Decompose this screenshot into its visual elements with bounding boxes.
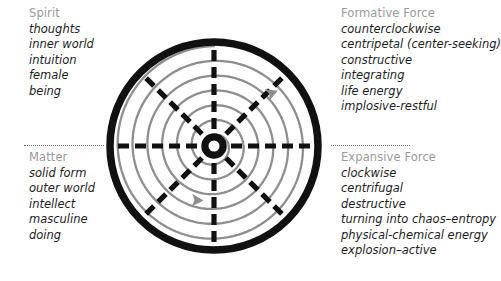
list-item: physical-chemical energy (341, 228, 496, 244)
list-item: implosive-restful (341, 99, 501, 115)
lower-arrow-icon (192, 194, 204, 207)
list-item: doing (29, 228, 95, 244)
diagram-canvas: Spirit thoughts inner world intuition fe… (0, 0, 501, 281)
polarity-wheel (101, 24, 327, 270)
list-item: outer world (29, 181, 95, 197)
list-item: centripetal (center-seeking) (341, 37, 501, 53)
divider-left (24, 145, 104, 146)
list-item: intuition (29, 53, 94, 69)
block-list-expansive-force: clockwise centrifugal destructive turnin… (341, 166, 496, 260)
list-item: clockwise (341, 166, 496, 182)
list-item: masculine (29, 212, 95, 228)
text-block-expansive-force: Expansive Force clockwise centrifugal de… (341, 150, 496, 259)
list-item: life energy (341, 84, 501, 100)
text-block-spirit: Spirit thoughts inner world intuition fe… (29, 6, 94, 99)
divider-right (331, 145, 410, 146)
list-item: solid form (29, 166, 95, 182)
list-item: destructive (341, 197, 496, 213)
list-item: constructive (341, 53, 501, 69)
list-item: inner world (29, 37, 94, 53)
block-heading-formative-force: Formative Force (341, 6, 501, 22)
list-item: thoughts (29, 22, 94, 38)
list-item: intellect (29, 197, 95, 213)
block-heading-matter: Matter (29, 150, 95, 166)
block-list-formative-force: counterclockwise centripetal (center-see… (341, 22, 501, 116)
list-item: turning into chaos–entropy (341, 212, 496, 228)
block-heading-expansive-force: Expansive Force (341, 150, 496, 166)
text-block-formative-force: Formative Force counterclockwise centrip… (341, 6, 501, 115)
list-item: centrifugal (341, 181, 496, 197)
list-item: integrating (341, 68, 501, 84)
list-item: female (29, 68, 94, 84)
list-item: counterclockwise (341, 22, 501, 38)
block-list-matter: solid form outer world intellect masculi… (29, 166, 95, 244)
list-item: being (29, 84, 94, 100)
block-list-spirit: thoughts inner world intuition female be… (29, 22, 94, 100)
text-block-matter: Matter solid form outer world intellect … (29, 150, 95, 243)
list-item: explosion–active (341, 243, 496, 259)
hub-center (209, 141, 220, 152)
block-heading-spirit: Spirit (29, 6, 94, 22)
